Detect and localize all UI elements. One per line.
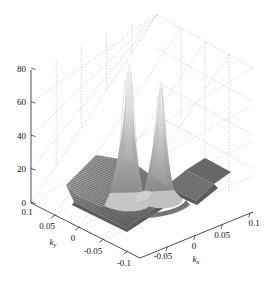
plot-canvas: 80 60 40 20 0 0.1 0.05 0 -0.05 -0.1 -0.0… bbox=[0, 0, 280, 286]
z-tick-20: 20 bbox=[17, 164, 27, 174]
x-axis-label: kx bbox=[193, 254, 200, 265]
y-axis-label-subscript: y bbox=[53, 241, 57, 248]
y-axis-label: ky bbox=[50, 237, 57, 248]
y-tick-0: 0 bbox=[71, 233, 76, 243]
x-tick-labels: -0.05 0 0.05 0.1 bbox=[154, 218, 260, 261]
y-tick-0-05: 0.05 bbox=[39, 221, 55, 231]
z-tick-60: 60 bbox=[17, 97, 27, 107]
mesh-surface bbox=[66, 62, 231, 232]
figure-3d-surface-plot: 80 60 40 20 0 0.1 0.05 0 -0.05 -0.1 -0.0… bbox=[0, 0, 280, 286]
z-tick-80: 80 bbox=[17, 64, 27, 74]
z-tick-labels: 80 60 40 20 0 bbox=[17, 64, 27, 208]
x-tick-neg-0-05: -0.05 bbox=[154, 251, 173, 261]
x-tick-0-05: 0.05 bbox=[214, 230, 230, 240]
z-tick-40: 40 bbox=[17, 131, 27, 141]
z-tick-0: 0 bbox=[22, 198, 27, 208]
y-tick-neg-0-05: -0.05 bbox=[84, 246, 103, 256]
y-tick-0-1: 0.1 bbox=[21, 207, 32, 217]
x-tick-0: 0 bbox=[192, 241, 197, 251]
y-tick-neg-0-1: -0.1 bbox=[117, 258, 131, 268]
x-axis-label-subscript: x bbox=[196, 258, 200, 265]
x-tick-0-1: 0.1 bbox=[248, 218, 259, 228]
